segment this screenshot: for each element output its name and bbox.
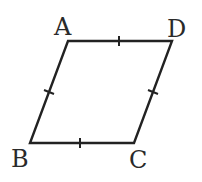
- label-C: C: [129, 146, 147, 174]
- rhombus-diagram: A D B C: [0, 0, 202, 182]
- label-A: A: [53, 13, 72, 41]
- label-B: B: [11, 145, 29, 173]
- label-D: D: [167, 15, 186, 43]
